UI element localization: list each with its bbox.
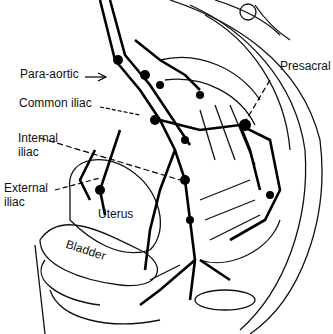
label-uterus: Uterus (98, 208, 133, 221)
label-common-iliac: Common iliac (19, 97, 92, 110)
label-internal-iliac-line1: Internal (18, 132, 58, 145)
label-internal-iliac-line2: iliac (18, 146, 39, 159)
label-external-iliac-line2: iliac (4, 196, 25, 209)
label-presacral: Presacral (280, 60, 331, 73)
anatomy-drawing (0, 0, 333, 334)
label-external-iliac-line1: External (4, 182, 48, 195)
label-para-aortic: Para-aortic (20, 68, 79, 81)
